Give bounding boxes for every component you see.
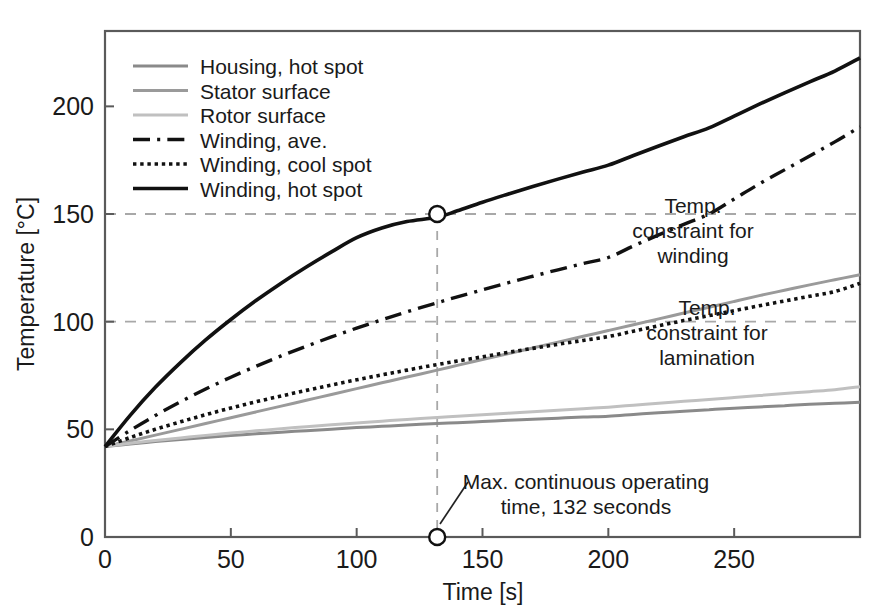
annotation-winding-constraint-line1: Temp. bbox=[664, 194, 721, 217]
annotation-winding-constraint: Temp. constraint for winding bbox=[632, 194, 753, 267]
y-tick-label: 150 bbox=[52, 200, 94, 228]
x-tick-label: 50 bbox=[217, 545, 245, 573]
y-tick-label: 50 bbox=[66, 415, 94, 443]
legend-label-rotor-surface: Rotor surface bbox=[200, 104, 326, 127]
legend-label-winding-ave: Winding, ave. bbox=[200, 129, 327, 152]
chart-container: 050100150200 050100150200250 Time [s] Te… bbox=[0, 0, 887, 610]
marker-operating-time-intersection bbox=[429, 206, 445, 222]
legend-label-housing-hot-spot: Housing, hot spot bbox=[200, 55, 364, 78]
annotation-operating-time-line1: Max. continuous operating bbox=[463, 470, 709, 493]
x-axis-ticks-group: 050100150200250 bbox=[98, 528, 755, 573]
y-tick-label: 100 bbox=[52, 308, 94, 336]
x-tick-label: 100 bbox=[336, 545, 378, 573]
annotation-lamination-constraint-line1: Temp. bbox=[678, 296, 735, 319]
x-tick-label: 0 bbox=[98, 545, 112, 573]
marker-operating-time-axis bbox=[429, 529, 445, 545]
annotation-lamination-constraint-line2: constraint for bbox=[646, 321, 767, 344]
annotation-lamination-constraint-line3: lamination bbox=[659, 346, 755, 369]
annotation-winding-constraint-line2: constraint for bbox=[632, 219, 753, 242]
x-tick-label: 200 bbox=[587, 545, 629, 573]
annotation-winding-constraint-line3: winding bbox=[656, 244, 728, 267]
legend-label-stator-surface: Stator surface bbox=[200, 80, 331, 103]
y-axis-title: Temperature [°C] bbox=[13, 197, 39, 371]
annotation-operating-time-line2: time, 132 seconds bbox=[501, 495, 671, 518]
y-tick-label: 0 bbox=[80, 523, 94, 551]
x-tick-label: 250 bbox=[713, 545, 755, 573]
legend: Housing, hot spotStator surfaceRotor sur… bbox=[118, 44, 378, 201]
series-line-housing-hot-spot bbox=[105, 402, 860, 446]
legend-label-winding-hot-spot: Winding, hot spot bbox=[200, 178, 362, 201]
annotation-operating-time: Max. continuous operating time, 132 seco… bbox=[440, 470, 709, 524]
temperature-vs-time-chart: 050100150200 050100150200250 Time [s] Te… bbox=[0, 0, 887, 610]
legend-label-winding-cool-spot: Winding, cool spot bbox=[200, 153, 372, 176]
annotation-lamination-constraint: Temp. constraint for lamination bbox=[646, 296, 767, 369]
x-axis-title: Time [s] bbox=[443, 579, 524, 605]
y-tick-label: 200 bbox=[52, 92, 94, 120]
x-tick-label: 150 bbox=[462, 545, 504, 573]
